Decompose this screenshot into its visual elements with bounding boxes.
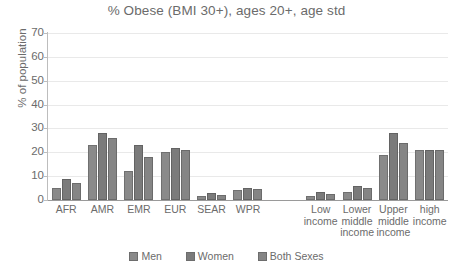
bar[interactable] (379, 155, 388, 200)
bar-group (303, 33, 339, 200)
bar[interactable] (217, 195, 226, 200)
y-axis-tick-label: 60 (18, 51, 44, 63)
bar[interactable] (161, 152, 170, 200)
x-axis-label: SEAR (193, 202, 229, 246)
bar[interactable] (363, 188, 372, 200)
legend-swatch-icon (258, 252, 267, 261)
legend-label: Women (198, 250, 234, 262)
bar[interactable] (415, 150, 424, 200)
bar-groups (48, 33, 448, 200)
legend-swatch-icon (186, 252, 195, 261)
y-axis-tick-label: 70 (18, 27, 44, 39)
bar-group (48, 33, 84, 200)
x-axis-label: EUR (157, 202, 193, 246)
y-axis-tick-label: 10 (18, 170, 44, 182)
x-axis-label (266, 202, 302, 246)
x-axis-labels: AFRAMREMREURSEARWPRLowincomeLowermiddlei… (48, 202, 448, 246)
bar-group (84, 33, 120, 200)
chart-legend: MenWomenBoth Sexes (0, 250, 453, 262)
bar[interactable] (326, 194, 335, 200)
y-axis-tick-label: 40 (18, 99, 44, 111)
bar-group (339, 33, 375, 200)
bar-group (193, 33, 229, 200)
bar[interactable] (316, 192, 325, 200)
x-axis-label: AFR (48, 202, 84, 246)
bar[interactable] (243, 188, 252, 200)
legend-label: Men (141, 250, 161, 262)
bar[interactable] (98, 133, 107, 200)
bar[interactable] (181, 150, 190, 200)
x-axis-label: Lowincome (303, 202, 339, 246)
bar[interactable] (134, 145, 143, 200)
bar-group (412, 33, 448, 200)
y-axis-tick-label: 0 (18, 194, 44, 206)
bar-chart: % Obese (BMI 30+), ages 20+, age std % o… (0, 0, 453, 273)
plot-area (48, 33, 448, 200)
y-axis-tick-label: 30 (18, 122, 44, 134)
legend-item[interactable]: Men (129, 250, 161, 262)
bar-group (121, 33, 157, 200)
y-axis-tick-label: 20 (18, 146, 44, 158)
x-axis-label: Uppermiddleincome (375, 202, 411, 246)
x-axis-label: WPR (230, 202, 266, 246)
x-axis-line (47, 200, 448, 201)
chart-title: % Obese (BMI 30+), ages 20+, age std (0, 3, 453, 18)
y-axis-tick-label: 50 (18, 75, 44, 87)
bar[interactable] (343, 192, 352, 200)
bar[interactable] (52, 188, 61, 200)
bar[interactable] (124, 171, 133, 200)
bar[interactable] (197, 196, 206, 200)
legend-item[interactable]: Both Sexes (258, 250, 324, 262)
bar-group (230, 33, 266, 200)
bar-group (157, 33, 193, 200)
x-axis-label: Lowermiddleincome (339, 202, 375, 246)
bar[interactable] (233, 190, 242, 200)
x-axis-label: highincome (412, 202, 448, 246)
legend-label: Both Sexes (270, 250, 324, 262)
x-axis-label: AMR (84, 202, 120, 246)
x-axis-label: EMR (121, 202, 157, 246)
bar[interactable] (62, 179, 71, 200)
bar-group (375, 33, 411, 200)
bar[interactable] (108, 138, 117, 200)
bar[interactable] (253, 189, 262, 200)
bar[interactable] (353, 186, 362, 200)
bar[interactable] (144, 157, 153, 200)
bar[interactable] (171, 148, 180, 200)
legend-swatch-icon (129, 252, 138, 261)
bar[interactable] (72, 183, 81, 200)
bar[interactable] (435, 150, 444, 200)
bar[interactable] (88, 145, 97, 200)
y-axis-tick-mark (44, 200, 48, 201)
bar[interactable] (389, 133, 398, 200)
bar-group (266, 33, 302, 200)
bar[interactable] (399, 143, 408, 200)
bar[interactable] (207, 193, 216, 200)
bar[interactable] (306, 196, 315, 200)
bar[interactable] (425, 150, 434, 200)
legend-item[interactable]: Women (186, 250, 234, 262)
